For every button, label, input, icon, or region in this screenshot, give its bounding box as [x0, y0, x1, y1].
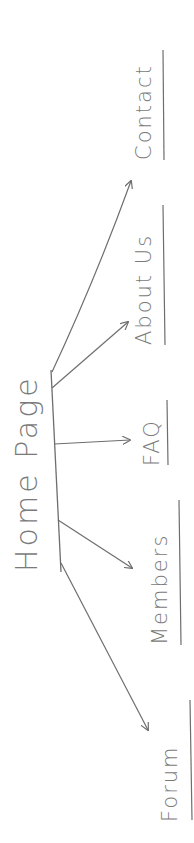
contact-underline: [163, 50, 164, 160]
node-faq: FAQ: [142, 419, 163, 466]
forum-underline: [190, 700, 192, 820]
arrow-to-faq: [54, 440, 130, 444]
about-us-underline: [163, 205, 165, 345]
arrow-to-forum: [61, 563, 148, 730]
faq-underline: [167, 400, 168, 465]
node-about-us: About Us: [134, 234, 155, 345]
node-forum: Forum: [160, 745, 181, 822]
node-members: Members: [150, 534, 171, 645]
arrow-to-members: [58, 520, 132, 568]
node-home-page: Home Page: [12, 375, 42, 572]
members-underline: [179, 500, 181, 645]
sitemap-diagram: Home Page Contact About Us FAQ Members F…: [0, 0, 194, 843]
arrow-to-contact: [52, 181, 131, 372]
arrow-to-about-us: [52, 322, 128, 388]
root-underline: [51, 370, 61, 572]
node-contact: Contact: [134, 64, 155, 160]
